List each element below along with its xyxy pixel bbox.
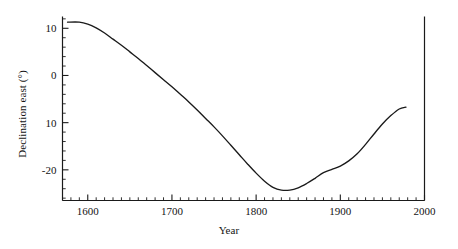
x-tick-label: 1700 — [161, 205, 183, 217]
y-axis-ticks — [63, 19, 69, 198]
x-tick-label: 2000 — [414, 205, 436, 217]
y-tick-label: 10 — [10, 22, 57, 34]
data-series-group — [68, 22, 406, 190]
y-axis-title: Declination east (°) — [16, 54, 28, 174]
x-axis-ticks — [63, 195, 425, 201]
x-axis-title: Year — [0, 224, 458, 236]
chart-figure: 10010-20 16001700180019002000 Declinatio… — [0, 0, 458, 249]
declination-line-chart — [0, 0, 458, 249]
axis-lines — [63, 17, 425, 201]
x-tick-label: 1600 — [77, 205, 99, 217]
series-line-0 — [68, 22, 406, 190]
x-tick-label: 1800 — [245, 205, 267, 217]
x-tick-label: 1900 — [329, 205, 351, 217]
